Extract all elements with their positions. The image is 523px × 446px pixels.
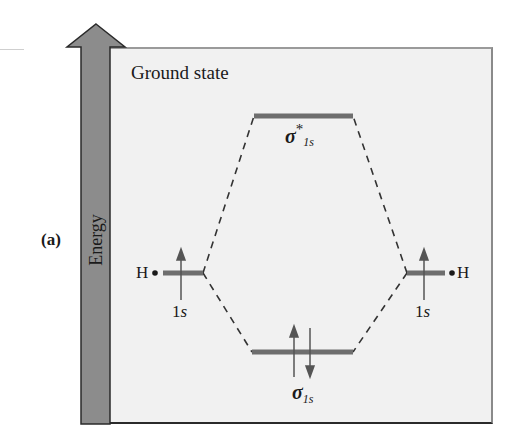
energy-levels xyxy=(163,116,445,352)
right-orbital-label: 1s xyxy=(415,303,430,320)
diagram-graphics xyxy=(0,0,523,446)
radical-dot-icon xyxy=(449,270,455,276)
panel-label: (a) xyxy=(41,231,61,248)
radical-dot-icon xyxy=(152,270,158,276)
correlation-lines xyxy=(203,116,407,352)
energy-axis-label: Energy xyxy=(87,214,105,266)
mo-diagram: Ground state (a) Energy H H 1s 1s σ*1s σ… xyxy=(0,0,523,446)
antibonding-label: σ*1s xyxy=(285,126,314,146)
left-orbital-label: 1s xyxy=(172,303,187,320)
left-atom-label: H xyxy=(136,264,148,281)
panel-title: Ground state xyxy=(131,63,229,82)
right-atom-label: H xyxy=(457,264,469,281)
bonding-label: σ1s xyxy=(292,382,313,402)
